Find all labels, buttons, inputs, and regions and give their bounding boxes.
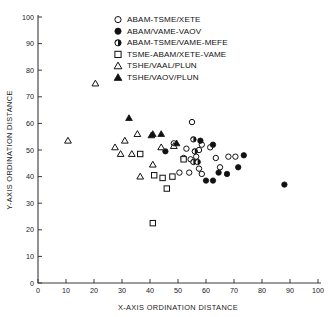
x-tick-label: 50 xyxy=(174,286,182,295)
data-point-3-6 xyxy=(138,151,143,156)
y-tick-label: 30 xyxy=(26,199,34,208)
x-tick-label: 0 xyxy=(36,286,40,295)
data-point-0-15 xyxy=(187,170,192,175)
legend-label: ABAM-TSME/XETE xyxy=(127,15,201,24)
x-tick-label: 40 xyxy=(146,286,154,295)
data-point-0-13 xyxy=(196,166,201,171)
y-tick-label: 70 xyxy=(26,92,34,101)
legend-marker-open-square xyxy=(115,51,121,57)
x-tick-label: 90 xyxy=(286,286,294,295)
data-point-0-5 xyxy=(194,154,199,159)
legend-marker-open-circle xyxy=(115,17,121,23)
data-point-1-8 xyxy=(210,178,215,183)
x-tick-label: 20 xyxy=(90,286,98,295)
data-point-0-14 xyxy=(177,170,182,175)
data-point-3-2 xyxy=(152,173,157,178)
x-tick-label: 80 xyxy=(258,286,266,295)
data-point-0-10 xyxy=(217,165,222,170)
y-tick-label: 60 xyxy=(26,119,34,128)
data-point-2-3 xyxy=(195,159,200,164)
data-point-0-12 xyxy=(233,154,238,159)
data-point-1-1 xyxy=(198,138,203,143)
data-point-1-6 xyxy=(236,165,241,170)
y-tick-label: 0 xyxy=(30,279,34,288)
data-point-3-5 xyxy=(181,157,186,162)
y-tick-label: 80 xyxy=(26,66,34,75)
y-tick-label: 20 xyxy=(26,225,34,234)
data-point-1-4 xyxy=(216,170,221,175)
legend-label: TSHE/VAAL/PLUN xyxy=(127,61,197,70)
data-point-3-0 xyxy=(150,220,155,225)
data-point-1-2 xyxy=(210,142,215,147)
data-point-1-9 xyxy=(282,182,287,187)
data-point-0-16 xyxy=(199,171,204,176)
data-point-0-11 xyxy=(226,154,231,159)
data-point-3-3 xyxy=(160,175,165,180)
legend-label: TSHE/VAOV/PLUN xyxy=(127,73,199,82)
legend-marker-filled-circle xyxy=(115,28,121,34)
data-point-3-1 xyxy=(164,186,169,191)
legend-item-4: TSHE/VAAL/PLUN xyxy=(114,61,197,70)
data-point-3-4 xyxy=(170,174,175,179)
plot-background xyxy=(0,0,336,317)
data-point-1-7 xyxy=(203,178,208,183)
x-tick-label: 30 xyxy=(118,286,126,295)
data-point-2-1 xyxy=(192,149,197,154)
y-axis-title: Y-AXIS ORDINATION DISTANCE xyxy=(5,90,14,209)
y-tick-label: 50 xyxy=(26,146,34,155)
legend-label: ABAM-TSME/VAME-MEFE xyxy=(127,38,228,47)
legend-item-2: ABAM-TSME/VAME-MEFE xyxy=(115,38,228,47)
data-point-2-0 xyxy=(191,137,196,142)
legend-item-1: ABAM/VAME-VAOV xyxy=(115,27,202,36)
y-tick-label: 90 xyxy=(26,39,34,48)
y-tick-label: 100 xyxy=(22,13,34,22)
data-point-0-0 xyxy=(189,119,194,124)
legend-label: ABAM/VAME-VAOV xyxy=(127,27,202,36)
x-tick-label: 100 xyxy=(312,286,324,295)
legend-item-0: ABAM-TSME/XETE xyxy=(115,15,201,24)
data-point-1-5 xyxy=(224,171,229,176)
data-point-0-9 xyxy=(213,155,218,160)
scatter-plot-figure: 0102030405060708090100010203040506070809… xyxy=(0,0,336,317)
y-tick-label: 10 xyxy=(26,252,34,261)
legend-item-5: TSHE/VAOV/PLUN xyxy=(114,73,199,82)
legend-item-3: TSME-ABAM/XETE-VAME xyxy=(115,50,227,59)
legend-marker-half-circle xyxy=(115,40,121,46)
data-point-1-3 xyxy=(241,153,246,158)
y-tick-label: 40 xyxy=(26,172,34,181)
x-axis-title: X-AXIS ORDINATION DISTANCE xyxy=(118,303,238,312)
legend-label: TSME-ABAM/XETE-VAME xyxy=(127,50,227,59)
x-tick-label: 60 xyxy=(202,286,210,295)
x-tick-label: 10 xyxy=(62,286,70,295)
plot-canvas: 0102030405060708090100010203040506070809… xyxy=(0,0,336,317)
x-tick-label: 70 xyxy=(230,286,238,295)
data-point-0-2 xyxy=(184,146,189,151)
